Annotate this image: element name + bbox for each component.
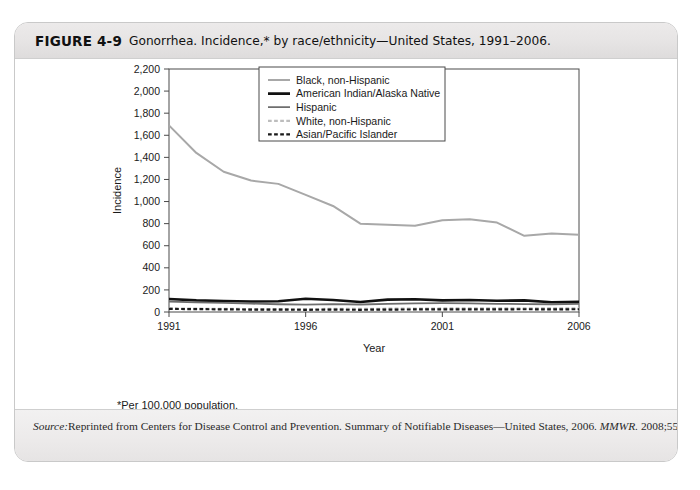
series-line [169,299,579,303]
figure-card: FIGURE 4-9 Gonorrhea. Incidence,* by rac… [14,22,678,462]
source-label: Source: [33,420,68,432]
source-citation: 2008;55:52. [638,420,678,432]
legend-label: American Indian/Alaska Native [296,87,440,99]
x-tick-label: 1991 [157,320,181,332]
figure-number: FIGURE 4-9 [35,33,122,49]
y-tick-label: 2,200 [134,63,160,75]
figure-caption-text: Gonorrhea. Incidence,* by race/ethnicity… [129,34,551,48]
incidence-line-chart: 02004006008001,0001,2001,4001,6001,8002,… [15,59,678,410]
x-tick-label: 2001 [431,320,455,332]
figure-page: FIGURE 4-9 Gonorrhea. Incidence,* by rac… [0,0,700,490]
source-line: Source:Reprinted from Centers for Diseas… [33,419,661,434]
x-axis-title: Year [363,342,386,354]
y-tick-label: 800 [142,217,160,229]
x-tick-label: 1996 [294,320,318,332]
legend-label: Black, non-Hispanic [296,74,390,86]
y-tick-label: 400 [142,261,160,273]
y-tick-label: 0 [154,306,160,318]
y-tick-label: 1,400 [134,151,160,163]
y-tick-label: 2,000 [134,85,160,97]
x-tick-label: 2006 [567,320,591,332]
y-tick-label: 1,000 [134,195,160,207]
legend-label: White, non-Hispanic [296,115,391,127]
legend-box: Black, non-HispanicAmerican Indian/Alask… [259,67,445,141]
figure-caption-band: FIGURE 4-9 Gonorrhea. Incidence,* by rac… [15,23,677,59]
y-axis-title: Incidence [111,167,123,214]
source-journal: MMWR. [600,420,638,432]
source-text: Reprinted from Centers for Disease Contr… [68,420,600,432]
chart-body: 02004006008001,0001,2001,4001,6001,8002,… [15,59,677,410]
legend-label: Asian/Pacific Islander [296,128,398,140]
y-tick-label: 1,200 [134,173,160,185]
y-tick-label: 600 [142,239,160,251]
series-layer [169,125,579,309]
y-tick-label: 1,600 [134,129,160,141]
source-band: Source:Reprinted from Centers for Diseas… [15,409,677,461]
series-line [169,125,579,235]
legend-label: Hispanic [296,101,337,113]
y-tick-label: 1,800 [134,107,160,119]
y-tick-label: 200 [142,284,160,296]
